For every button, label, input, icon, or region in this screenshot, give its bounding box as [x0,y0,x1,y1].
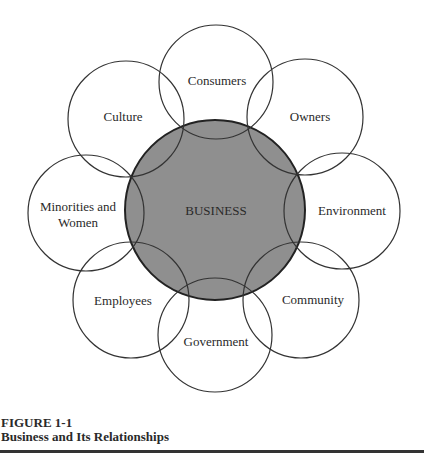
figure-title: Business and Its Relationships [0,430,426,444]
minorities-label-line2: Women [58,215,99,230]
community-label: Community [282,292,345,307]
environment-label: Environment [318,203,386,218]
government-label: Government [184,334,249,349]
owners-label: Owners [290,109,330,124]
business-label: BUSINESS [185,203,246,218]
culture-label: Culture [104,109,143,124]
figure-caption: FIGURE 1-1 Business and Its Relationship… [0,416,426,444]
employees-label: Employees [94,293,152,308]
figure-number: FIGURE 1-1 [0,416,426,430]
business-relationships-diagram: BUSINESS Consumers Owners Environment Co… [0,0,426,400]
caption-rule-divider [0,450,424,453]
minorities-label-line1: Minorities and [40,199,117,214]
consumers-label: Consumers [188,73,247,88]
